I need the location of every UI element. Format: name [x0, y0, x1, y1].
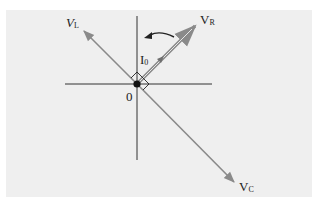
label-vl-symbol: V	[66, 15, 74, 30]
label-vc-subscript: C	[248, 185, 253, 194]
origin-dot	[133, 80, 140, 87]
label-vl-subscript: L	[74, 21, 79, 30]
label-vc: VC	[239, 180, 254, 193]
phasor-vc-arrow	[137, 84, 234, 182]
label-i0-subscript: 0	[144, 58, 148, 67]
label-vl: VL	[66, 16, 79, 29]
rotation-arrow-icon	[144, 32, 174, 39]
phasor-diagram	[0, 0, 317, 205]
label-vc-symbol: V	[239, 179, 248, 194]
label-vr: VR	[200, 13, 215, 26]
origin-label: 0	[126, 89, 133, 104]
label-i0: I0	[140, 53, 148, 66]
label-vr-subscript: R	[209, 18, 214, 27]
phasor-vl-arrow	[84, 31, 137, 84]
label-vr-symbol: V	[200, 12, 209, 27]
label-origin: 0	[126, 90, 133, 103]
